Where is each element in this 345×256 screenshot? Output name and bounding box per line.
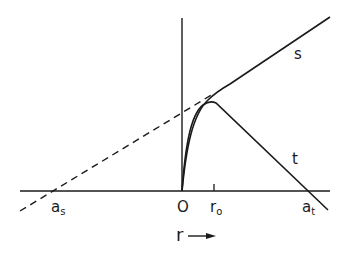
label-at: at	[302, 200, 315, 215]
t-curve	[182, 102, 328, 210]
x-axis-label: r	[176, 226, 183, 244]
label-at-main: a	[302, 198, 311, 216]
label-as-sub: s	[60, 206, 65, 217]
label-r0: ro	[210, 200, 222, 215]
x-axis-variable: r	[176, 224, 183, 245]
right-arrow-icon	[188, 230, 218, 242]
label-as-main: a	[51, 198, 60, 216]
curve-label-s: s	[294, 47, 302, 62]
s-extrapolation-dashed-line	[20, 94, 213, 211]
label-as: as	[51, 200, 65, 215]
label-origin: O	[177, 200, 189, 215]
label-at-sub: t	[311, 206, 315, 217]
label-r0-sub: o	[216, 206, 222, 217]
curve-label-t: t	[292, 152, 298, 167]
diagram-canvas	[0, 0, 345, 256]
